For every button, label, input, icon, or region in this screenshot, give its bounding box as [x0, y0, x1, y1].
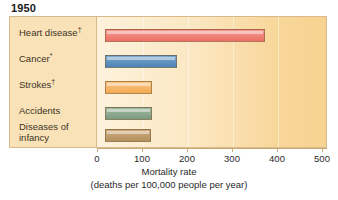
x-ticklabel-0: 0	[94, 153, 99, 164]
x-ticklabel-500: 500	[314, 153, 330, 164]
bar-highlight-strokes	[107, 83, 150, 86]
chart-figure: 1950 Heart disease† Cancer* Strokes† Acc…	[0, 0, 338, 200]
category-label-cancer: Cancer*	[19, 53, 99, 64]
category-label-diseases-of-infancy-line2: infancy	[19, 132, 99, 143]
x-ticklabel-400: 400	[269, 153, 285, 164]
x-tick-300	[232, 148, 233, 152]
category-label-heart-disease: Heart disease†	[19, 27, 99, 38]
bar-highlight-heart-disease	[107, 31, 263, 34]
x-ticklabel-200: 200	[179, 153, 195, 164]
x-ticklabel-300: 300	[224, 153, 240, 164]
dagger-marker-heart-disease: †	[78, 26, 82, 33]
category-row-heart-disease: Heart disease†	[10, 23, 96, 49]
x-tick-400	[277, 148, 278, 152]
x-tick-100	[142, 148, 143, 152]
bar-cancer	[105, 55, 177, 68]
category-label-cancer-text: Cancer	[19, 53, 50, 64]
dagger-marker-strokes: †	[51, 78, 55, 85]
chart-frame: Heart disease† Cancer* Strokes† Accident…	[9, 16, 327, 148]
bar-accidents	[105, 107, 152, 120]
x-ticklabel-100: 100	[134, 153, 150, 164]
bar-strokes	[105, 81, 152, 94]
chart-title: 1950	[11, 2, 36, 14]
category-label-accidents: Accidents	[19, 105, 99, 116]
category-label-strokes: Strokes†	[19, 79, 99, 90]
bar-highlight-diseases-of-infancy	[107, 131, 149, 134]
bar-highlight-accidents	[107, 109, 150, 112]
category-row-diseases-of-infancy: Diseases of infancy	[10, 121, 96, 147]
x-axis: 0 100 200 300 400 500	[97, 148, 327, 149]
plot-area	[98, 17, 326, 147]
category-row-strokes: Strokes†	[10, 75, 96, 101]
category-label-panel: Heart disease† Cancer* Strokes† Accident…	[10, 17, 97, 147]
bar-heart-disease	[105, 29, 265, 42]
category-label-diseases-of-infancy: Diseases of infancy	[19, 121, 99, 143]
category-label-strokes-text: Strokes	[19, 79, 51, 90]
x-tick-200	[187, 148, 188, 152]
bar-highlight-cancer	[107, 57, 175, 60]
x-tick-500	[322, 148, 323, 152]
category-row-cancer: Cancer*	[10, 49, 96, 75]
x-axis-subtitle: (deaths per 100,000 people per year)	[0, 179, 338, 190]
x-tick-0	[97, 148, 98, 152]
x-axis-title: Mortality rate	[0, 166, 338, 177]
gridline-400	[278, 17, 279, 147]
bar-diseases-of-infancy	[105, 129, 151, 142]
asterisk-marker-cancer: *	[50, 52, 53, 59]
category-label-diseases-of-infancy-line1: Diseases of	[19, 121, 99, 132]
category-label-accidents-text: Accidents	[19, 105, 60, 116]
category-label-heart-disease-text: Heart disease	[19, 27, 78, 38]
